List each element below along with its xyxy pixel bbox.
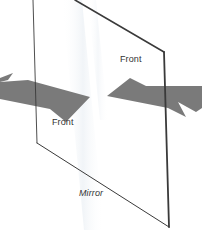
mirror-diagram: Front Front Mirror	[0, 0, 202, 230]
mirror-label: Mirror	[79, 189, 103, 198]
arrow-right-reflected	[107, 78, 202, 117]
front-label-left: Front	[52, 118, 74, 127]
front-label-right: Front	[120, 55, 142, 64]
